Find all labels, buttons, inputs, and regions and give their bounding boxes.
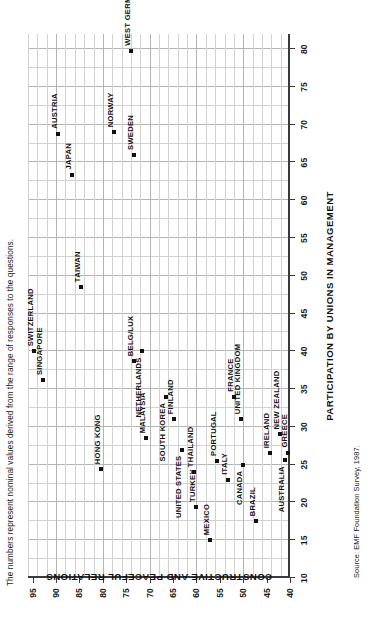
data-point-marker [41,378,45,382]
x-tick [290,124,295,125]
data-point-marker [112,130,116,134]
x-tick-label: 40 [299,346,309,356]
data-point-label: GREECE [280,414,289,448]
data-point-marker [239,417,243,421]
data-point-label: IRELAND [262,413,271,449]
x-tick-label: 80 [299,44,309,54]
data-point-label: NORWAY [106,92,115,127]
x-tick-label: 10 [299,573,309,583]
y-tick [290,578,291,583]
rotated-page-wrapper: The numbers represent nominal values der… [0,0,378,630]
x-tick-label: 35 [299,384,309,394]
x-tick-label: 30 [299,422,309,432]
x-tick [290,539,295,540]
data-point-label: FINLAND [166,379,175,414]
data-point-label: SWITZERLAND [26,288,35,346]
x-tick-label: 50 [299,271,309,281]
data-point-label: BELG/LUX [126,316,135,356]
y-axis-title-text: CONSTRUCTIVE AND PEACEFUL RELATIONS [46,573,272,584]
data-point-label: SINGAPORE [35,327,44,375]
data-point-label: JAPAN [64,143,73,169]
x-tick [290,237,295,238]
x-tick-label: 20 [299,498,309,508]
data-point-label: TAIWAN [73,251,82,282]
data-point-label: WEST GERMANY [123,0,132,46]
data-point-marker [140,349,144,353]
data-point-marker [79,285,83,289]
data-point-label: SWEDEN [126,115,135,150]
x-tick [290,464,295,465]
data-point-marker [70,173,74,177]
x-tick [290,199,295,200]
figure-caption: The numbers represent nominal values der… [6,239,15,586]
data-point-marker [56,132,60,136]
data-point-marker [132,153,136,157]
x-tick [290,388,295,389]
x-tick [290,161,295,162]
x-tick [290,501,295,502]
x-axis-title: PARTICIPATION BY UNIONS IN MANAGEMENT [324,34,335,578]
data-point-marker [172,417,176,421]
x-tick-label: 65 [299,158,309,168]
data-point-label: UNITED KINGDOM [233,344,242,415]
x-tick [290,313,295,314]
x-tick [290,48,295,49]
scatter-figure: The numbers represent nominal values der… [0,0,378,630]
data-point-marker [129,49,133,53]
x-tick [290,275,295,276]
x-tick-label: 70 [299,120,309,130]
x-tick-label: 45 [299,309,309,319]
data-point-label: AUSTRIA [50,93,59,129]
x-tick [290,426,295,427]
x-tick [290,86,295,87]
data-point-label: MALAYSIA [138,392,147,433]
x-tick-label: 55 [299,233,309,243]
x-tick [290,350,295,351]
y-axis-title: CONSTRUCTIVE AND PEACEFUL RELATIONS [28,447,290,630]
x-tick-label: 25 [299,460,309,470]
x-tick-label: 60 [299,195,309,205]
x-tick-label: 15 [299,535,309,545]
x-tick-label: 75 [299,82,309,92]
source-note: Source: EMF Foundation Survey, 1987. [352,445,361,578]
data-point-marker [144,436,148,440]
